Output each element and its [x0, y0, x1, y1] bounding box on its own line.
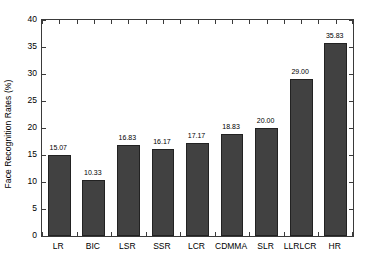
bar: [117, 145, 140, 236]
x-tick-mark: [94, 20, 95, 24]
bar: [324, 43, 347, 236]
bar: [255, 128, 278, 236]
x-tick-mark: [352, 20, 353, 24]
y-axis-label: Face Recognition Rates (%): [0, 0, 16, 268]
x-tick-mark: [180, 232, 181, 236]
bar: [290, 79, 313, 236]
y-tick-mark: [42, 128, 46, 129]
bar: [152, 149, 175, 236]
y-tick-mark: [42, 209, 46, 210]
x-tick-mark: [198, 20, 199, 24]
bar-value-label: 16.17: [153, 138, 171, 146]
x-tick-mark: [284, 232, 285, 236]
x-tick-mark: [215, 20, 216, 24]
x-tick-mark: [163, 20, 164, 24]
y-tick-label: 0: [3, 231, 37, 240]
y-tick-label: 20: [3, 123, 37, 132]
y-tick-label: 40: [3, 15, 37, 24]
y-tick-mark: [349, 236, 353, 237]
x-tick-mark: [128, 20, 129, 24]
y-tick-mark: [349, 155, 353, 156]
bar-value-label: 10.33: [84, 169, 102, 177]
bar-value-label: 15.07: [50, 144, 68, 152]
y-tick-mark: [349, 101, 353, 102]
x-tick-mark: [318, 232, 319, 236]
x-tick-mark: [77, 20, 78, 24]
x-tick-label: SLR: [257, 241, 274, 251]
bar-value-label: 18.83: [222, 123, 240, 131]
plot-area: [41, 19, 354, 237]
bar-value-label: 35.83: [326, 32, 344, 40]
x-tick-mark: [77, 232, 78, 236]
y-tick-mark: [349, 182, 353, 183]
x-tick-mark: [318, 20, 319, 24]
y-tick-mark: [42, 155, 46, 156]
y-tick-mark: [42, 182, 46, 183]
x-tick-label: LCR: [188, 241, 205, 251]
x-tick-label: HR: [329, 241, 341, 251]
x-tick-mark: [232, 20, 233, 24]
y-tick-mark: [349, 128, 353, 129]
y-tick-mark: [349, 209, 353, 210]
x-tick-mark: [146, 232, 147, 236]
bar: [48, 155, 71, 236]
y-tick-label: 15: [3, 150, 37, 159]
x-tick-label: LSR: [119, 241, 136, 251]
bar-value-label: 20.00: [257, 117, 275, 125]
x-tick-mark: [146, 20, 147, 24]
x-tick-mark: [336, 20, 337, 24]
x-tick-label: LLRLCR: [284, 241, 317, 251]
bar: [221, 134, 244, 236]
x-tick-mark: [42, 20, 43, 24]
x-tick-label: SSR: [153, 241, 170, 251]
x-tick-mark: [284, 20, 285, 24]
y-tick-mark: [42, 47, 46, 48]
x-tick-mark: [180, 20, 181, 24]
bar: [186, 143, 209, 236]
x-tick-mark: [59, 20, 60, 24]
x-tick-label: LR: [53, 241, 64, 251]
x-tick-mark: [249, 20, 250, 24]
x-tick-label: BIC: [86, 241, 100, 251]
x-tick-label: CDMMA: [215, 241, 247, 251]
y-tick-mark: [349, 47, 353, 48]
x-tick-mark: [215, 232, 216, 236]
x-tick-mark: [111, 232, 112, 236]
x-tick-mark: [267, 20, 268, 24]
y-tick-mark: [349, 74, 353, 75]
y-tick-mark: [42, 101, 46, 102]
x-tick-mark: [352, 232, 353, 236]
x-tick-mark: [249, 232, 250, 236]
bar: [82, 180, 105, 236]
y-tick-label: 5: [3, 204, 37, 213]
figure-canvas: Face Recognition Rates (%) LRBICLSRSSRLC…: [0, 0, 367, 268]
x-tick-mark: [111, 20, 112, 24]
y-tick-label: 30: [3, 69, 37, 78]
x-tick-mark: [301, 20, 302, 24]
y-tick-label: 25: [3, 96, 37, 105]
bar-value-label: 29.00: [291, 68, 309, 76]
x-tick-mark: [42, 232, 43, 236]
y-tick-mark: [42, 74, 46, 75]
y-tick-mark: [42, 236, 46, 237]
y-tick-label: 35: [3, 42, 37, 51]
y-tick-label: 10: [3, 177, 37, 186]
bar-value-label: 17.17: [188, 132, 206, 140]
bar-value-label: 16.83: [119, 134, 137, 142]
